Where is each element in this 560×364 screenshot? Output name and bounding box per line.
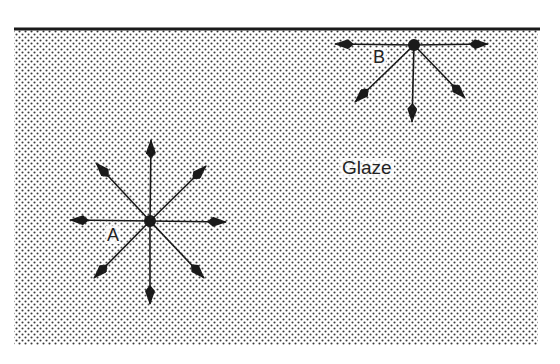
stress-arrow (414, 44, 488, 45)
stress-arrow (335, 44, 414, 45)
stress-arrow (150, 221, 226, 222)
glaze-label: Glaze (340, 158, 394, 178)
point-b-dot (408, 39, 420, 51)
point-b-label: B (372, 48, 386, 66)
point-a-label: A (106, 226, 120, 244)
glaze-stress-diagram (0, 0, 560, 364)
glaze-region (14, 30, 538, 345)
stress-arrow (70, 220, 150, 221)
point-a-dot (144, 215, 156, 227)
stress-arrow (150, 140, 151, 221)
